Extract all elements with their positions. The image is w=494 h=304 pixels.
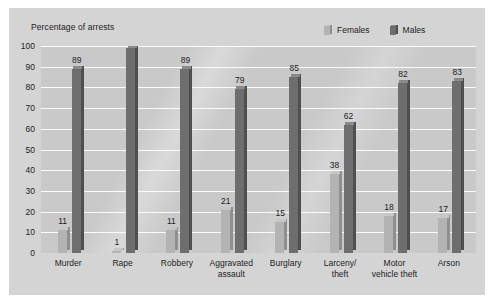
gridline-70 [41, 108, 476, 109]
bar-value-label: 62 [344, 111, 353, 121]
bar-face [126, 48, 135, 253]
y-tick-70: 70 [26, 103, 35, 113]
bar-females-1[interactable]: 1 [112, 251, 121, 253]
chart-card: Percentage of arrests Females Males 1189… [9, 8, 485, 295]
bar-face [72, 69, 81, 253]
bar-face [452, 81, 461, 253]
x-label-5: Larceny/ theft [313, 258, 367, 279]
bar-face [289, 77, 298, 253]
bar-face [166, 230, 175, 253]
bar-side [447, 215, 450, 250]
y-tick-20: 20 [26, 207, 35, 217]
bar-side [67, 227, 70, 250]
bar-face [112, 251, 121, 253]
x-label-7: Arson [422, 258, 476, 269]
bar-side [298, 74, 301, 250]
legend-label-males: Males [403, 25, 426, 35]
bar-value-label: 89 [72, 55, 81, 65]
bar-side [284, 219, 287, 250]
y-tick-90: 90 [26, 62, 35, 72]
x-label-6: Motor vehicle theft [367, 258, 421, 279]
chart-legend: Females Males [324, 24, 425, 35]
bar-face [330, 174, 339, 253]
bar-value-label: 82 [398, 69, 407, 79]
bar-side [81, 66, 84, 250]
bar-females-4[interactable]: 15 [275, 222, 284, 253]
bar-value-label: 1 [114, 237, 119, 247]
bar-side [339, 171, 342, 250]
bar-value-label: 11 [58, 216, 67, 226]
chart-root: Percentage of arrests Females Males 1189… [0, 0, 494, 304]
bar-value-label: 11 [167, 216, 176, 226]
bar-value-label: 89 [181, 55, 190, 65]
bar-males-0[interactable]: 89 [72, 69, 81, 253]
y-tick-60: 60 [26, 124, 35, 134]
y-tick-0: 0 [30, 248, 35, 258]
bar-side [461, 78, 464, 250]
bar-face [221, 210, 230, 253]
bar-face [58, 230, 67, 253]
bar-value-label: 85 [289, 63, 298, 73]
gridline-40 [41, 170, 476, 171]
gridline-60 [41, 129, 476, 130]
plot-inner: 1189199118921791585386218821783 [41, 46, 476, 253]
x-label-1: Rape [95, 258, 149, 269]
gridline-80 [41, 87, 476, 88]
bar-males-6[interactable]: 82 [398, 83, 407, 253]
bar-females-5[interactable]: 38 [330, 174, 339, 253]
bar-face [398, 83, 407, 253]
bar-males-5[interactable]: 62 [344, 125, 353, 253]
plot-area: 1189199118921791585386218821783 10090807… [41, 46, 476, 253]
bar-females-7[interactable]: 17 [438, 218, 447, 253]
bar-side [175, 227, 178, 250]
bar-value-label: 15 [275, 208, 284, 218]
bar-value-label: 17 [439, 204, 448, 214]
bar-face [235, 89, 244, 253]
bar-value-label: 83 [453, 67, 462, 77]
y-tick-80: 80 [26, 82, 35, 92]
bar-males-4[interactable]: 85 [289, 77, 298, 253]
legend-swatch-females-icon [324, 24, 332, 35]
y-tick-50: 50 [26, 145, 35, 155]
gridline-30 [41, 191, 476, 192]
bar-males-1[interactable]: 99 [126, 48, 135, 253]
bar-face [438, 218, 447, 253]
bar-females-0[interactable]: 11 [58, 230, 67, 253]
gridline-100 [41, 46, 476, 47]
bar-side [135, 46, 138, 250]
y-tick-30: 30 [26, 186, 35, 196]
bar-value-label: 79 [235, 75, 244, 85]
bar-side [393, 213, 396, 250]
bar-males-7[interactable]: 83 [452, 81, 461, 253]
bar-face [384, 216, 393, 253]
x-label-4: Burglary [259, 258, 313, 269]
bar-females-6[interactable]: 18 [384, 216, 393, 253]
bar-side [244, 86, 247, 250]
x-label-3: Aggravated assault [204, 258, 258, 279]
legend-item-males[interactable]: Males [390, 24, 426, 35]
bar-males-3[interactable]: 79 [235, 89, 244, 253]
bar-value-label: 21 [221, 196, 230, 206]
bar-value-label: 38 [330, 160, 339, 170]
y-tick-40: 40 [26, 165, 35, 175]
x-label-0: Murder [41, 258, 95, 269]
bar-face [344, 125, 353, 253]
gridline-90 [41, 67, 476, 68]
bar-face [275, 222, 284, 253]
legend-item-females[interactable]: Females [324, 24, 370, 35]
bar-males-2[interactable]: 89 [180, 69, 189, 253]
bar-side [353, 122, 356, 250]
bar-females-3[interactable]: 21 [221, 210, 230, 253]
y-tick-100: 100 [21, 41, 35, 51]
x-label-2: Robbery [150, 258, 204, 269]
bar-side [230, 207, 233, 250]
bar-value-label: 18 [384, 202, 393, 212]
legend-label-females: Females [337, 25, 370, 35]
y-tick-10: 10 [26, 227, 35, 237]
bar-face [180, 69, 189, 253]
gridline-20 [41, 212, 476, 213]
legend-swatch-males-icon [390, 24, 398, 35]
gridline-10 [41, 232, 476, 233]
bar-females-2[interactable]: 11 [166, 230, 175, 253]
bar-side [407, 80, 410, 250]
